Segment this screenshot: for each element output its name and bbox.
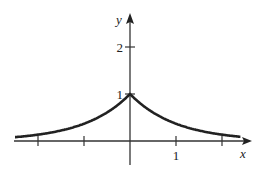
curve-e-neg-abs-x [15,94,240,137]
function-graph: 1 12 x y [0,0,264,181]
y-tick-label: 2 [117,40,124,55]
x-tick-label: 1 [173,148,180,163]
y-axis-label: y [114,12,122,27]
x-axis-label: x [239,146,246,161]
